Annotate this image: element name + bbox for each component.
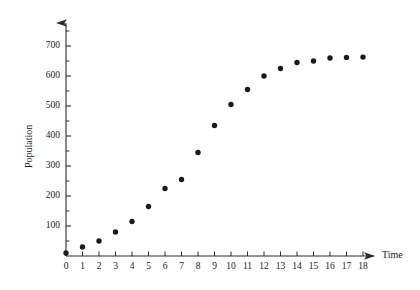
data-point (212, 123, 217, 128)
plot-canvas (0, 0, 420, 290)
y-axis-title: Population (24, 125, 34, 168)
data-point (360, 54, 365, 59)
data-point (294, 60, 299, 65)
data-point (327, 55, 332, 60)
data-point (113, 229, 118, 234)
data-point (146, 204, 151, 209)
y-tick-label: 100 (24, 221, 60, 231)
data-point (195, 150, 200, 155)
y-tick-label: 700 (24, 41, 60, 51)
y-tick-label: 200 (24, 191, 60, 201)
data-point (278, 66, 283, 71)
data-point (129, 219, 134, 224)
y-axis-major-ticks (66, 46, 71, 226)
data-point (80, 244, 85, 249)
x-tick-label: 18 (353, 262, 373, 272)
data-point (344, 55, 349, 60)
data-point (96, 238, 101, 243)
y-tick-label: 600 (24, 71, 60, 81)
data-point (179, 177, 184, 182)
data-point (311, 58, 316, 63)
data-point (261, 73, 266, 78)
data-point-series (63, 54, 365, 255)
data-point (63, 250, 68, 255)
x-axis-title: Time (382, 250, 403, 260)
data-point (228, 102, 233, 107)
data-point (162, 186, 167, 191)
x-axis-ticks (66, 252, 363, 257)
scatter-plot-figure: 100200300400500600700 012345678910111213… (0, 0, 420, 290)
data-point (245, 87, 250, 92)
y-tick-label: 500 (24, 101, 60, 111)
